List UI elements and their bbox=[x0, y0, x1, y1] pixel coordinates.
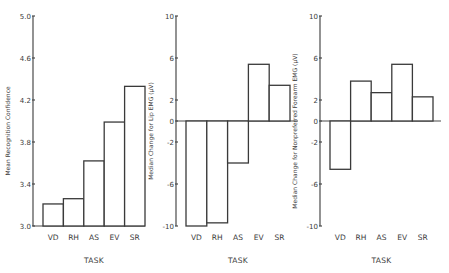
category-label: VD bbox=[335, 233, 346, 242]
category-label: VD bbox=[191, 233, 202, 242]
y-tick-label: 0 bbox=[314, 118, 318, 126]
y-tick-label: 6 bbox=[314, 55, 319, 63]
bar-as bbox=[84, 161, 104, 226]
bar-ev bbox=[104, 122, 124, 226]
bar-sr bbox=[269, 85, 290, 121]
y-tick-label: 5.0 bbox=[20, 13, 31, 21]
y-tick-label: -10 bbox=[307, 223, 318, 231]
bar-vd bbox=[186, 121, 207, 226]
category-label: SR bbox=[130, 233, 140, 242]
bar-vd bbox=[330, 121, 351, 169]
y-tick-label: 2 bbox=[170, 97, 174, 105]
category-label: RH bbox=[212, 233, 223, 242]
bar-rh bbox=[207, 121, 228, 223]
y-tick-label: -10 bbox=[163, 223, 174, 231]
panel-lip-emg: -10-6-202610VDRHASEVSRTASKMedian Change … bbox=[147, 13, 298, 266]
category-label: VD bbox=[48, 233, 59, 242]
x-axis-label: TASK bbox=[83, 256, 105, 265]
y-tick-label: -6 bbox=[311, 181, 319, 189]
y-tick-label: 3.0 bbox=[20, 223, 31, 231]
category-label: EV bbox=[254, 233, 265, 242]
bar-ev bbox=[248, 64, 269, 121]
y-tick-label: 2 bbox=[314, 97, 318, 105]
chart-svg: 3.03.43.84.24.65.0VDRHASEVSRTASKMean Rec… bbox=[0, 0, 449, 273]
category-label: EV bbox=[109, 233, 120, 242]
y-tick-label: 0 bbox=[170, 118, 174, 126]
bar-rh bbox=[63, 199, 83, 226]
category-label: AS bbox=[377, 233, 387, 242]
y-tick-label: 4.2 bbox=[20, 97, 31, 105]
y-axis-label: Median Change for Lip EMG (μV) bbox=[147, 82, 155, 180]
category-label: AS bbox=[89, 233, 99, 242]
bar-as bbox=[228, 121, 249, 163]
y-tick-label: 6 bbox=[170, 55, 175, 63]
y-axis-label: Mean Recognition Confidence bbox=[4, 86, 12, 176]
y-tick-label: 3.4 bbox=[20, 181, 32, 189]
x-axis-label: TASK bbox=[370, 256, 392, 265]
figure: 3.03.43.84.24.65.0VDRHASEVSRTASKMean Rec… bbox=[0, 0, 449, 273]
bar-as bbox=[371, 93, 392, 121]
bar-ev bbox=[392, 64, 413, 121]
y-tick-label: -6 bbox=[167, 181, 175, 189]
panel-recognition-confidence: 3.03.43.84.24.65.0VDRHASEVSRTASKMean Rec… bbox=[4, 13, 145, 266]
y-axis-label: Median Change for Nonpreferred Forearm E… bbox=[291, 53, 299, 208]
category-label: SR bbox=[275, 233, 285, 242]
y-tick-label: -2 bbox=[311, 139, 318, 147]
y-tick-label: 3.8 bbox=[20, 139, 31, 147]
y-tick-label: 4.6 bbox=[20, 55, 32, 63]
bar-sr bbox=[412, 97, 433, 121]
y-tick-label: 10 bbox=[165, 13, 174, 21]
category-label: SR bbox=[418, 233, 428, 242]
bar-rh bbox=[351, 81, 372, 121]
bar-sr bbox=[125, 86, 145, 226]
category-label: RH bbox=[355, 233, 366, 242]
category-label: AS bbox=[233, 233, 243, 242]
x-axis-label: TASK bbox=[227, 256, 249, 265]
panel-forearm-emg: -10-6-202610VDRHASEVSRTASKMedian Change … bbox=[291, 13, 441, 266]
bar-vd bbox=[43, 204, 63, 226]
y-tick-label: 10 bbox=[309, 13, 318, 21]
category-label: EV bbox=[397, 233, 408, 242]
category-label: RH bbox=[68, 233, 79, 242]
y-tick-label: -2 bbox=[167, 139, 174, 147]
